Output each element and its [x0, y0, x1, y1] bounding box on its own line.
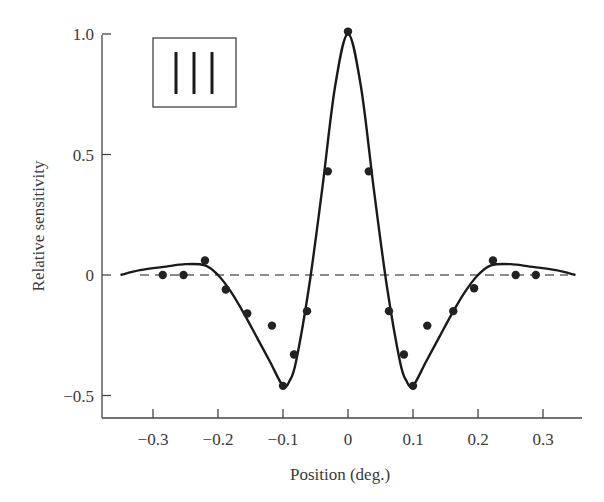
data-points — [159, 27, 541, 390]
data-point — [243, 309, 251, 317]
x-axis-title: Position (deg.) — [290, 465, 390, 484]
x-tick-label: −0.1 — [268, 430, 299, 449]
data-point — [344, 27, 352, 35]
y-tick-label: −0.5 — [63, 387, 94, 406]
y-tick-label: 0 — [86, 266, 95, 285]
x-tick-label: 0.1 — [402, 430, 423, 449]
fit-curve — [121, 34, 576, 387]
data-point — [222, 285, 230, 293]
x-tick-label: 0.2 — [467, 430, 488, 449]
axes: 1.00.50−0.5−0.3−0.2−0.100.10.20.3 — [63, 25, 582, 449]
x-tick-label: 0 — [344, 430, 353, 449]
data-point — [532, 271, 540, 279]
data-point — [449, 307, 457, 315]
data-point — [303, 307, 311, 315]
data-point — [409, 382, 417, 390]
legend-box — [153, 38, 236, 107]
y-axis-title: Relative sensitivity — [29, 160, 48, 291]
y-tick-label: 1.0 — [73, 25, 94, 44]
data-point — [159, 271, 167, 279]
three-bars-icon — [176, 52, 212, 94]
x-tick-label: −0.3 — [138, 430, 169, 449]
data-point — [489, 256, 497, 264]
data-point — [201, 256, 209, 264]
data-point — [385, 307, 393, 315]
data-point — [400, 350, 408, 358]
data-point — [268, 321, 276, 329]
data-point — [179, 271, 187, 279]
data-point — [324, 167, 332, 175]
data-point — [290, 350, 298, 358]
data-point — [423, 321, 431, 329]
y-tick-label: 0.5 — [73, 146, 94, 165]
data-point — [365, 167, 373, 175]
data-point — [279, 382, 287, 390]
x-tick-label: 0.3 — [532, 430, 553, 449]
fit-curve-path — [121, 34, 576, 387]
x-tick-label: −0.2 — [203, 430, 234, 449]
chart: 1.00.50−0.5−0.3−0.2−0.100.10.20.3 Positi… — [0, 0, 604, 502]
data-point — [470, 284, 478, 292]
data-point — [512, 271, 520, 279]
